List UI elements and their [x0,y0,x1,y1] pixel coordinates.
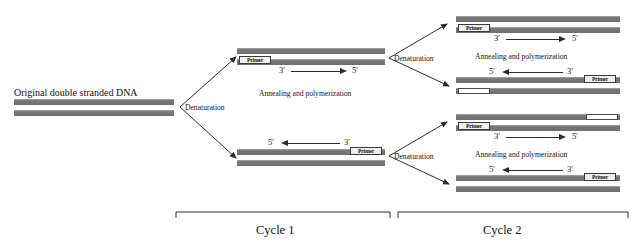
cycle2-lb-top-direction-line [506,137,562,138]
cycle1-upper-direction-arrowhead [340,68,347,74]
cycle2-ub-top-annealing-label: Annealing and polymerization [475,53,567,61]
cycle2-lb-bottom-primer-box: Primer [584,173,616,181]
cycle1-label: Cycle 1 [256,224,295,237]
cycle2-lb-top-annealing-label: Annealing and polymerization [475,151,567,159]
cycle2-lower-denaturation-label: Denaturation [394,153,434,161]
cycle2-ub-top-primer-box: Primer [458,24,490,32]
cycle2-ub-bottom-right-end-label: 3' [567,67,573,76]
cycle1-lower-right-end-label: 3' [344,138,350,147]
cycle2-lb-bottom-right-end-label: 3' [567,165,573,174]
cycle2-label: Cycle 2 [483,224,522,237]
cycle1-upper-left-end-label: 3' [279,66,285,75]
cycle2-ub-top-left-end-label: 3' [494,34,500,43]
cycle2-lb-top-primer-box: Primer [458,122,490,130]
cycle1-lower-template-strand [237,160,385,166]
cycle2-lb-bottom-template-strand [456,186,620,192]
cycle2-lb-top-primer-segment [586,114,618,120]
cycle2-lb-bottom-left-end-label: 5' [489,165,495,174]
cycle1-upper-right-end-label: 5' [352,66,358,75]
cycle2-ub-bottom-primer-box: Primer [584,75,616,83]
original-dna-label: Original double stranded DNA [14,88,138,98]
cycle2-ub-top-direction-arrowhead [559,36,566,42]
cycle2-lb-top-left-end-label: 3' [494,132,500,141]
cycle1-denaturation-label: Denaturation [185,104,225,112]
cycle1-lower-direction-arrowhead [281,140,288,146]
cycle1-lower-left-end-label: 5' [268,138,274,147]
original-dna-strand-top [14,99,174,105]
cycle1-upper-primer-box: Primer [239,56,271,64]
cycle2-ub-bottom-direction-line [509,72,563,73]
cycle2-upper-denaturation-label: Denaturation [394,55,434,63]
pcr-diagram-canvas: Original double stranded DNA Denaturatio… [0,0,632,248]
cycle2-lb-top-direction-arrowhead [559,134,566,140]
cycle2-bracket [398,212,628,218]
cycle2-ub-top-template-strand [456,16,620,22]
cycle2-lb-top-right-end-label: 5' [572,132,578,141]
cycle2-ub-bottom-left-end-label: 5' [489,67,495,76]
cycle1-upper-direction-line [291,71,343,72]
cycle1-bracket [176,212,390,218]
cycle2-ub-bottom-direction-arrowhead [502,69,509,75]
cycle2-ub-top-direction-line [506,39,562,40]
cycle1-lower-direction-line [288,143,340,144]
original-dna-strand-bottom [14,110,174,116]
cycle2-lb-bottom-direction-line [509,170,563,171]
cycle2-ub-bottom-primer-segment [458,88,490,94]
cycle2-ub-top-right-end-label: 5' [572,34,578,43]
cycle1-lower-primer-box: Primer [350,147,382,155]
cycle-brackets [0,0,632,248]
cycle1-upper-annealing-label: Annealing and polymerization [259,90,351,98]
cycle2-lb-bottom-direction-arrowhead [502,167,509,173]
branch-arrows [0,0,632,248]
cycle1-upper-template-strand [237,48,385,54]
